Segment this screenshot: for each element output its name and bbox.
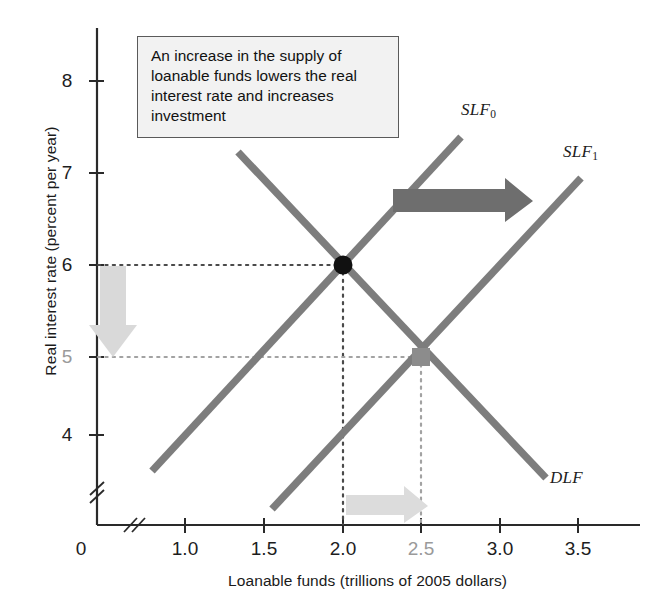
y-tick-label-7: 7 <box>52 162 82 184</box>
slf1-curve-label: SLF1 <box>563 142 598 162</box>
callout-text: An increase in the supply of loanable fu… <box>151 46 386 126</box>
callout-box: An increase in the supply of loanable fu… <box>137 36 399 138</box>
loanable-funds-market-figure: Real interest rate (percent per year) Lo… <box>0 0 646 606</box>
x-tick-label-3-0: 3.0 <box>473 538 527 560</box>
x-tick-label-3-5: 3.5 <box>551 538 605 560</box>
initial-equilibrium-marker <box>334 256 353 275</box>
slf1-curve <box>272 178 581 509</box>
equilibrium-markers-group <box>334 256 431 367</box>
y-tick-label-5: 5 <box>52 346 82 368</box>
slf0-label-text: SLF <box>461 100 490 119</box>
x-tick-label-1-0: 1.0 <box>158 538 212 560</box>
y-tick-label-6: 6 <box>52 254 82 276</box>
reference-lines-group <box>98 265 421 524</box>
x-axis-title: Loanable funds (trillions of 2005 dollar… <box>228 572 507 590</box>
y-tick-label-8: 8 <box>52 70 82 92</box>
new-equilibrium-marker <box>412 348 430 366</box>
investment-increase-arrow <box>346 486 428 523</box>
slf0-curve <box>152 137 461 471</box>
slf1-label-subscript: 1 <box>592 150 598 162</box>
x-tick-label-1-5: 1.5 <box>237 538 291 560</box>
slf1-label-text: SLF <box>563 142 592 161</box>
slf0-curve-label: SLF0 <box>461 100 496 120</box>
slf0-label-subscript: 0 <box>490 108 496 120</box>
y-tick-label-4: 4 <box>52 424 82 446</box>
x-tick-label-2-0: 2.0 <box>316 538 370 560</box>
x-tick-label-0: 0 <box>66 538 96 560</box>
dlf-curve-label: DLF <box>550 468 583 488</box>
x-tick-label-2-5: 2.5 <box>394 538 448 560</box>
